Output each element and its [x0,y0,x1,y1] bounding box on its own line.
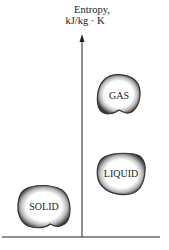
gas-blob: GAS [97,75,140,114]
y-axis [80,34,85,237]
liquid-blob: LIQUID [97,153,145,194]
solid-label: SOLID [29,201,58,212]
gas-label: GAS [109,90,129,101]
liquid-label: LIQUID [104,168,138,179]
entropy-phase-diagram: GAS LIQUID SOLID [0,0,169,250]
solid-blob: SOLID [18,186,70,228]
arrowhead-icon [80,34,85,42]
